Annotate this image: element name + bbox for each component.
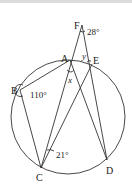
angle-x-label: x	[67, 75, 72, 85]
label-D: D	[106, 165, 113, 176]
line-FD	[82, 25, 107, 160]
line-AD	[70, 60, 107, 160]
angle-C-value: 21°	[56, 150, 69, 160]
label-B: B	[11, 85, 18, 96]
label-E: E	[93, 55, 99, 66]
angle-arc-x	[67, 70, 74, 72]
geometry-diagram: F A E B C D 28° 110° 21° x y	[0, 0, 132, 196]
label-A: A	[61, 53, 69, 64]
angle-arc-C	[47, 150, 54, 151]
label-C: C	[36, 172, 43, 183]
label-F: F	[74, 20, 80, 31]
angle-y-label: y	[81, 51, 86, 61]
angle-arc-F	[80, 31, 85, 32]
line-BC	[20, 90, 41, 168]
angle-B-value: 110°	[30, 90, 47, 100]
angle-F-value: 28°	[87, 27, 100, 37]
